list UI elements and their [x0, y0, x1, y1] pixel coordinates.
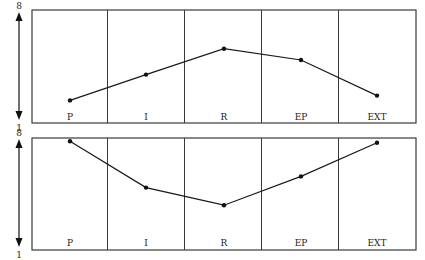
chart-figure: 8 1 P I R EP EXT 8 1 P I	[0, 0, 425, 260]
y-tick-min: 1	[16, 250, 22, 260]
data-point	[222, 203, 226, 207]
bottom-panel: 8 1 P I R EP EXT	[16, 128, 417, 260]
data-point	[144, 72, 148, 76]
plot-frame	[32, 10, 416, 123]
category-label: I	[144, 238, 148, 248]
category-label: I	[144, 112, 148, 122]
category-label: EXT	[368, 112, 387, 122]
y-tick-max: 8	[16, 128, 22, 138]
y-axis-double-arrow-icon	[16, 12, 23, 120]
data-point	[375, 141, 379, 145]
category-label: P	[67, 238, 73, 248]
data-point	[375, 93, 379, 97]
category-label: P	[67, 112, 73, 122]
data-line	[70, 141, 377, 205]
category-label: R	[221, 112, 228, 122]
data-point	[144, 185, 148, 189]
data-point	[222, 47, 226, 51]
data-point	[68, 139, 72, 143]
data-points	[68, 139, 379, 207]
category-label: R	[221, 238, 228, 248]
data-point	[299, 58, 303, 62]
top-panel: 8 1 P I R EP EXT	[16, 1, 417, 133]
data-line	[70, 49, 377, 101]
y-tick-max: 8	[16, 1, 22, 11]
data-point	[299, 174, 303, 178]
category-label: EP	[295, 238, 308, 248]
data-point	[68, 98, 72, 102]
y-axis-double-arrow-icon	[16, 139, 23, 247]
plot-frame	[32, 138, 416, 250]
category-label: EP	[295, 112, 308, 122]
category-label: EXT	[368, 238, 387, 248]
